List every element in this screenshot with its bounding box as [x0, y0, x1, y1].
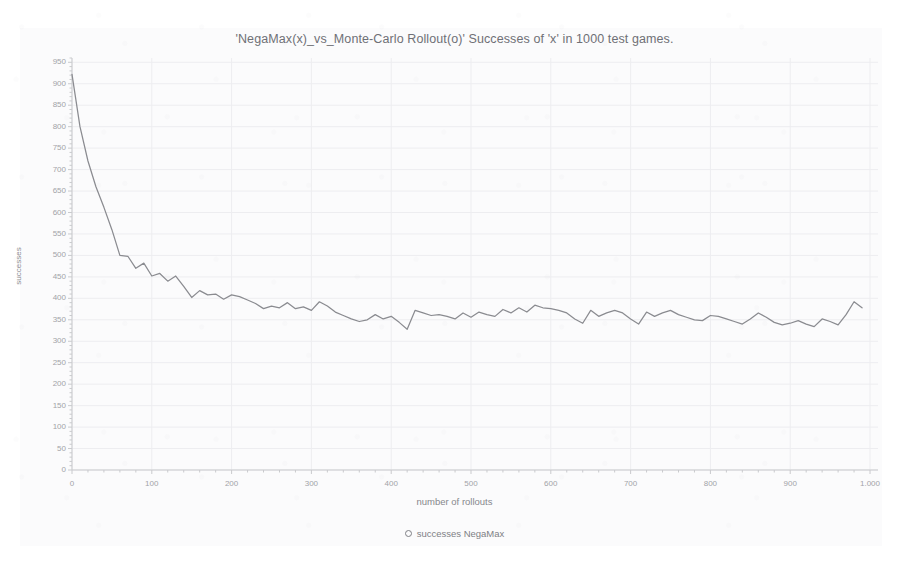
scanned-page: 'NegaMax(x)_vs_Monte-Carlo Rollout(o)' S…: [0, 0, 909, 579]
y-tick-label: 850: [30, 100, 66, 109]
legend-entry-label: successes NegaMax: [417, 528, 505, 539]
y-tick-label: 0: [30, 465, 66, 474]
x-tick-label: 500: [449, 479, 493, 488]
y-axis-title: successes: [14, 236, 23, 296]
tick-marks: [68, 58, 870, 474]
x-tick-label: 1.000: [848, 479, 892, 488]
y-tick-label: 700: [30, 165, 66, 174]
y-tick-label: 950: [30, 57, 66, 66]
x-tick-label: 0: [50, 479, 94, 488]
y-tick-label: 900: [30, 79, 66, 88]
x-tick-label: 200: [210, 479, 254, 488]
y-tick-label: 550: [30, 229, 66, 238]
legend-marker-circle-icon: [405, 530, 412, 537]
y-tick-label: 600: [30, 208, 66, 217]
y-tick-label: 650: [30, 186, 66, 195]
y-tick-label: 300: [30, 336, 66, 345]
x-tick-label: 800: [688, 479, 732, 488]
x-tick-label: 900: [768, 479, 812, 488]
y-tick-label: 150: [30, 401, 66, 410]
x-tick-label: 100: [130, 479, 174, 488]
y-tick-label: 250: [30, 358, 66, 367]
y-tick-label: 800: [30, 122, 66, 131]
x-tick-label: 400: [369, 479, 413, 488]
x-tick-label: 700: [609, 479, 653, 488]
y-tick-label: 500: [30, 250, 66, 259]
x-axis-title: number of rollouts: [0, 496, 909, 507]
y-tick-label: 450: [30, 272, 66, 281]
data-series-line: [72, 74, 862, 329]
plot-area: 0501001502002503003504004505005506006507…: [0, 0, 909, 579]
grid-lines: [72, 58, 878, 470]
axis-lines: [72, 58, 878, 470]
y-tick-label: 50: [30, 444, 66, 453]
x-tick-label: 300: [289, 479, 333, 488]
y-tick-label: 100: [30, 422, 66, 431]
x-tick-label: 600: [529, 479, 573, 488]
y-tick-label: 750: [30, 143, 66, 152]
chart-legend: successes NegaMax: [0, 528, 909, 539]
plot-svg: [0, 0, 909, 579]
y-tick-label: 350: [30, 315, 66, 324]
y-tick-label: 400: [30, 293, 66, 302]
y-tick-label: 200: [30, 379, 66, 388]
